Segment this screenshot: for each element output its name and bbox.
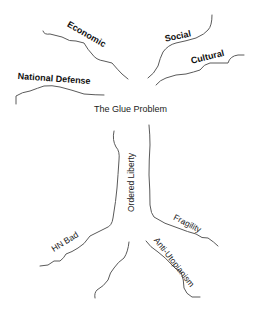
social-branch-line xyxy=(148,15,212,78)
trunk-right-line xyxy=(149,125,218,246)
trunk-label-ordered-liberty: Ordered Liberty xyxy=(127,153,136,212)
middle-left-root-line xyxy=(95,242,129,298)
national-defense-branch-line xyxy=(16,86,104,104)
diagram-title: The Glue Problem xyxy=(94,105,167,114)
glue-problem-tree-diagram: Economic Social Cultural National Defens… xyxy=(0,0,257,311)
